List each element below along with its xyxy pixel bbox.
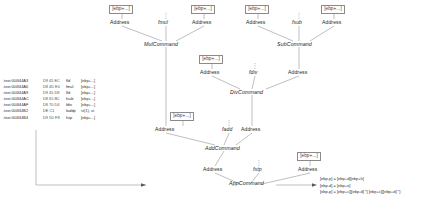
expression-line: [ebp-p] = [ebp+d][ebp+h] <box>320 176 400 183</box>
address-node-app-left[interactable]: Address <box>203 167 222 172</box>
mem-operand-sub-left[interactable]: [ebp+...] <box>245 5 269 14</box>
command-node-app[interactable]: AppCommand <box>229 181 264 186</box>
address-node-div-right[interactable]: Address <box>288 70 307 75</box>
address-node-add-left[interactable]: Address <box>155 127 174 132</box>
op-node-fstp[interactable]: fstp <box>253 167 262 172</box>
address-node-mul-right[interactable]: Address <box>192 20 211 25</box>
command-node-mul[interactable]: MulCommand <box>144 42 178 47</box>
address-node-add-right[interactable]: Address <box>241 127 260 132</box>
address-node-div-left[interactable]: Address <box>200 70 219 75</box>
diagram-canvas: [ebp+...] [ebp+...] [ebp+...] [ebp+...] … <box>0 0 441 207</box>
asm-operands: [ebp+...] <box>81 115 109 121</box>
address-node-sub-right[interactable]: Address <box>322 20 341 25</box>
expression-output: [ebp-p] = [ebp+d][ebp+h] [ebp-d] = [ebp+… <box>320 176 400 196</box>
mem-operand-mul-right[interactable]: [ebp+...] <box>191 5 215 14</box>
mem-operand-add-left[interactable]: [ebp+...] <box>170 112 194 121</box>
command-node-add[interactable]: AddCommand <box>205 146 240 151</box>
expression-line: [ebp-p] = [ebp+c][[ebp-d] *] [ebp+c][[eb… <box>320 189 400 196</box>
disassembly-listing: .text:004f44A3 D9 45 EC fld [ebp+...] .t… <box>3 78 109 121</box>
op-node-fdiv[interactable]: fdiv <box>249 70 257 75</box>
address-node-mul-left[interactable]: Address <box>110 20 129 25</box>
op-node-fmul[interactable]: fmul <box>158 20 168 25</box>
mem-operand-app-right[interactable]: [ebp+...] <box>297 152 321 161</box>
mem-operand-div-left[interactable]: [ebp+...] <box>199 55 223 64</box>
mem-operand-mul-left[interactable]: [ebp+...] <box>109 5 133 14</box>
asm-bytes: D9 5D F8 <box>43 115 66 121</box>
address-node-sub-left[interactable]: Address <box>246 20 265 25</box>
mem-operand-sub-right[interactable]: [ebp+...] <box>321 5 345 14</box>
asm-address: .text:004f44B4 <box>3 115 43 121</box>
command-node-sub[interactable]: SubCommand <box>277 42 312 47</box>
op-node-fsub[interactable]: fsub <box>292 20 302 25</box>
command-node-div[interactable]: DivCommand <box>230 90 263 95</box>
asm-row[interactable]: .text:004f44B4 D9 5D F8 fstp [ebp+...] <box>3 115 109 121</box>
op-node-fadd[interactable]: fadd <box>222 127 232 132</box>
asm-mnemonic: fstp <box>66 115 81 121</box>
address-node-app-right[interactable]: Address <box>298 167 317 172</box>
expression-line: [ebp-d] = [ebp+e] <box>320 183 400 190</box>
